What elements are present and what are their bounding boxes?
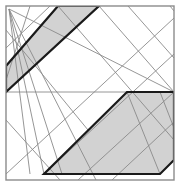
geometric-figure-canvas — [0, 0, 180, 186]
figure-svg — [0, 0, 180, 186]
